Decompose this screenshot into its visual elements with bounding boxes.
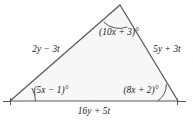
- side-label-left: 2y − 3t: [32, 45, 60, 54]
- side-label-right: 5y + 3t: [153, 45, 181, 54]
- angle-label-apex: (10x + 3)°: [99, 28, 139, 37]
- angle-label-bottom-right: (8x + 2)°: [123, 86, 158, 95]
- triangle-figure: (10x + 3)° (5x − 1)° (8x + 2)° 2y − 3t 5…: [0, 0, 193, 120]
- angle-label-bottom-left: (5x − 1)°: [33, 86, 68, 95]
- triangle-diagram-svg: [0, 0, 193, 120]
- side-label-bottom: 16y + 5t: [78, 107, 110, 116]
